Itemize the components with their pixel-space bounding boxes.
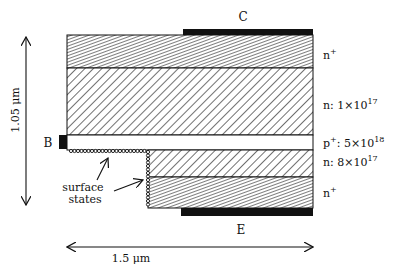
surface-states-arrow-2 [114, 180, 143, 191]
layer-p-plus-base [67, 135, 313, 150]
emitter-label: E [237, 223, 246, 237]
layer-label-n-plus-top: n+ [323, 47, 337, 62]
layer-label-n-plus-bottom: n+ [323, 185, 337, 200]
layer-label-p-plus-base: p+: 5×1018 [323, 135, 384, 150]
surface-states-label-line2: states [68, 193, 102, 206]
width-dimension-label: 1.5 μm [112, 252, 151, 265]
layer-n-collector [67, 68, 313, 135]
emitter-contact [181, 208, 313, 216]
layer-n-emitter [148, 150, 313, 177]
layer-label-n-emitter: n: 8×1017 [323, 154, 378, 169]
surface-states-arrow-1 [97, 158, 108, 180]
hbt-diagram: C E B n+ n: 1×1017 p+: 5×1018 n: 8×1017 … [0, 0, 395, 272]
layer-n-plus-bottom [148, 177, 313, 208]
layer-label-n-collector: n: 1×1017 [323, 97, 378, 112]
height-dimension-label: 1.05 μm [9, 87, 22, 133]
base-contact [59, 135, 67, 149]
collector-label: C [238, 10, 247, 24]
base-label: B [44, 136, 53, 150]
layer-n-plus-top [67, 35, 313, 68]
